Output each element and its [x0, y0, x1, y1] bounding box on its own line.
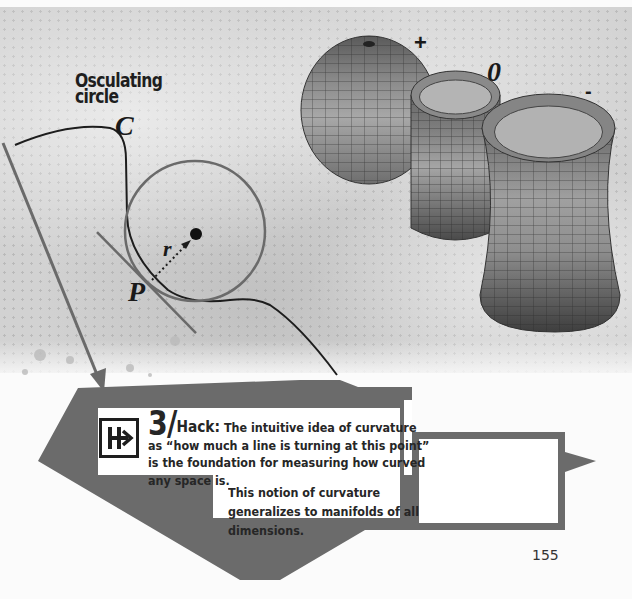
banner-pointer: [565, 452, 596, 472]
pointer-arrow-line: [3, 143, 100, 382]
figure-title: Osculating circle: [75, 72, 162, 104]
hack-arrow-icon: [99, 418, 139, 458]
hack-secondary-paragraph: This notion of curvature generalizes to …: [228, 483, 434, 540]
page-number: 155: [532, 547, 559, 563]
label-zero-curvature: 0: [487, 56, 501, 88]
label-point-p: P: [128, 276, 145, 308]
hack-paragraph: 3/Hack: The intuitive idea of curvature …: [148, 414, 432, 489]
center-point: [190, 228, 202, 240]
label-positive-curvature: +: [414, 30, 427, 56]
label-radius-r: r: [163, 236, 172, 262]
tangent-line: [97, 232, 196, 333]
hack-label: Hack:: [176, 417, 220, 436]
cylinder-surface: [411, 71, 500, 240]
label-negative-curvature: -: [585, 80, 592, 103]
label-curve-c: C: [115, 110, 134, 142]
hyperboloid-surface: [480, 94, 620, 332]
